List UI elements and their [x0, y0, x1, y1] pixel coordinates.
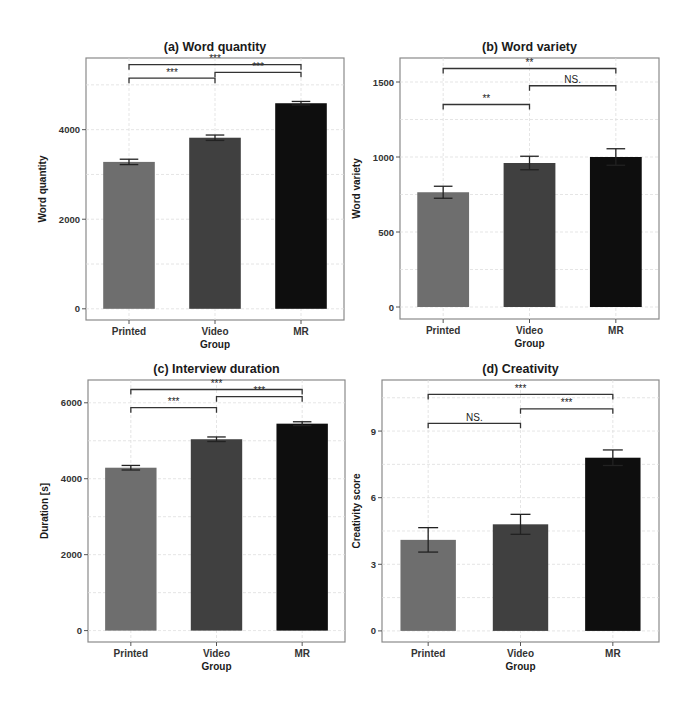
x-tick-label: Video: [507, 648, 534, 659]
bar-printed: [417, 192, 469, 307]
y-tick-label: 0: [389, 302, 394, 313]
y-tick-label: 2000: [61, 549, 82, 560]
chart-panel-2: *********0200040006000PrintedVideoMRGrou…: [39, 362, 345, 672]
y-tick-label: 3: [371, 559, 376, 570]
significance-label: ***: [253, 385, 265, 396]
bar-video: [504, 163, 556, 307]
significance-label: NS.: [466, 412, 483, 423]
y-axis-label: Duration [s]: [39, 483, 50, 539]
x-axis-label: Group: [202, 661, 232, 672]
significance-label: ***: [166, 67, 178, 78]
significance-label: ***: [209, 53, 221, 64]
y-tick-label: 2000: [59, 214, 80, 225]
y-tick-label: 4000: [61, 473, 82, 484]
x-tick-label: MR: [605, 648, 621, 659]
y-axis-label: Word quantity: [37, 155, 48, 222]
bar-printed: [105, 468, 156, 631]
y-tick-label: 500: [378, 227, 394, 238]
significance-label: ***: [252, 61, 264, 72]
bar-printed: [400, 540, 455, 631]
y-tick-label: 4000: [59, 124, 80, 135]
y-tick-label: 1500: [373, 77, 394, 88]
chart-title: (b) Word variety: [482, 40, 577, 54]
significance-label: **: [482, 93, 490, 104]
figure: *********020004000PrintedVideoMRGroupWor…: [0, 0, 698, 703]
chart-panel-1: **NS.**050010001500PrintedVideoMRGroupWo…: [351, 40, 659, 349]
x-tick-label: Video: [203, 648, 230, 659]
chart-panel-0: *********020004000PrintedVideoMRGroupWor…: [37, 40, 344, 350]
x-axis-label: Group: [506, 661, 536, 672]
x-tick-label: Printed: [426, 325, 460, 336]
x-tick-label: Video: [516, 325, 543, 336]
chart-canvas: *********020004000PrintedVideoMRGroupWor…: [0, 0, 698, 703]
y-tick-label: 0: [371, 625, 376, 636]
bar-mr: [585, 458, 640, 631]
significance-label: ***: [168, 396, 180, 407]
bar-mr: [276, 424, 327, 631]
bar-mr: [275, 103, 327, 309]
significance-label: ***: [515, 383, 527, 394]
y-tick-label: 0: [75, 303, 80, 314]
x-tick-label: Printed: [114, 648, 148, 659]
chart-title: (a) Word quantity: [164, 40, 267, 54]
significance-label: **: [526, 57, 534, 68]
x-axis-label: Group: [200, 339, 230, 350]
y-tick-label: 6000: [61, 397, 82, 408]
y-tick-label: 0: [77, 625, 82, 636]
x-tick-label: MR: [293, 326, 309, 337]
bar-video: [189, 138, 241, 309]
x-tick-label: MR: [608, 325, 624, 336]
chart-panel-3: NS.******0369PrintedVideoMRGroupCreativi…: [351, 362, 659, 672]
chart-title: (c) Interview duration: [153, 362, 279, 376]
significance-label: ***: [211, 378, 223, 389]
x-tick-label: Video: [201, 326, 228, 337]
y-axis-label: Word variety: [351, 158, 362, 219]
bar-printed: [103, 162, 155, 309]
significance-label: NS.: [564, 74, 581, 85]
x-tick-label: MR: [294, 648, 310, 659]
x-tick-label: Printed: [411, 648, 445, 659]
y-tick-label: 1000: [373, 152, 394, 163]
x-axis-label: Group: [515, 338, 545, 349]
x-tick-label: Printed: [112, 326, 146, 337]
bar-mr: [590, 157, 642, 307]
significance-label: ***: [561, 397, 573, 408]
bar-video: [191, 439, 242, 630]
bar-video: [493, 524, 548, 631]
y-tick-label: 6: [371, 492, 376, 503]
y-axis-label: Creativity score: [351, 473, 362, 548]
y-tick-label: 9: [371, 426, 376, 437]
chart-title: (d) Creativity: [482, 362, 558, 376]
